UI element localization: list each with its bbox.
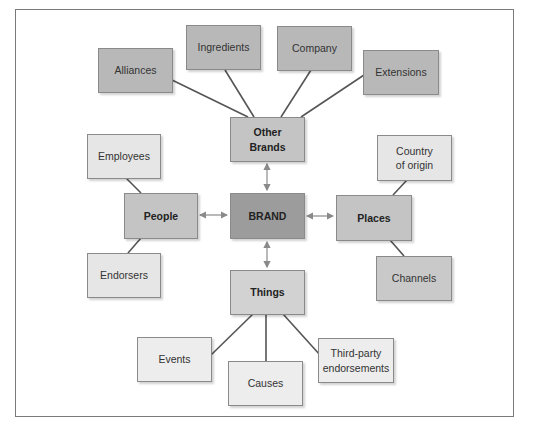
people-label: People xyxy=(144,209,178,223)
node-people: People xyxy=(124,193,198,239)
node-places: Places xyxy=(336,195,412,241)
node-ingredients: Ingredients xyxy=(186,25,261,70)
channels-label: Channels xyxy=(392,271,436,285)
extensions-label: Extensions xyxy=(375,65,426,79)
node-extensions: Extensions xyxy=(363,50,439,95)
node-company: Company xyxy=(277,26,352,71)
alliances-label: Alliances xyxy=(114,63,156,77)
node-third-party-endorsements: Third-party endorsements xyxy=(318,338,394,383)
brand-label: BRAND xyxy=(249,209,287,223)
third-party-endorsements-label: Third-party endorsements xyxy=(323,346,390,374)
node-employees: Employees xyxy=(87,134,161,179)
events-label: Events xyxy=(158,352,190,366)
endorsers-label: Endorsers xyxy=(100,268,148,282)
node-alliances: Alliances xyxy=(98,48,173,93)
node-country-of-origin: Country of origin xyxy=(377,135,452,181)
node-events: Events xyxy=(137,337,212,382)
node-channels: Channels xyxy=(376,256,452,301)
other-brands-label: Other Brands xyxy=(249,125,285,153)
country-of-origin-label: Country of origin xyxy=(396,144,433,172)
places-label: Places xyxy=(357,211,390,225)
ingredients-label: Ingredients xyxy=(198,40,250,54)
node-causes: Causes xyxy=(228,361,303,406)
node-endorsers: Endorsers xyxy=(87,253,161,298)
things-label: Things xyxy=(250,285,284,299)
node-other-brands: Other Brands xyxy=(230,117,305,162)
company-label: Company xyxy=(292,41,337,55)
node-brand: BRAND xyxy=(230,193,305,239)
employees-label: Employees xyxy=(98,149,150,163)
node-things: Things xyxy=(230,270,305,315)
causes-label: Causes xyxy=(248,376,284,390)
